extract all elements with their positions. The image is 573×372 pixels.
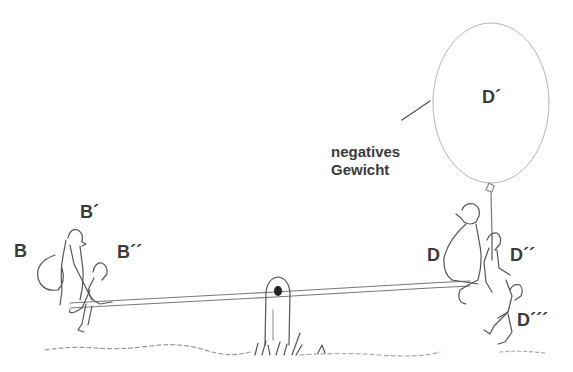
label-d: D	[427, 246, 440, 264]
label-d-double-prime: D´´	[510, 246, 535, 264]
label-b: B	[14, 242, 27, 260]
balloon-shape	[433, 23, 549, 236]
group-b-figures	[38, 230, 112, 332]
seesaw-plank	[70, 281, 470, 308]
label-b-prime: B´	[80, 203, 99, 221]
caption-pointer-line	[402, 101, 430, 120]
caption-line-2: Gewicht	[331, 161, 400, 179]
negative-weight-caption: negatives Gewicht	[331, 143, 400, 179]
fulcrum-post	[255, 277, 325, 355]
ground-line	[45, 345, 250, 355]
label-b-double-prime: B´´	[117, 243, 142, 261]
label-d-prime-balloon: D´	[482, 88, 501, 106]
caption-line-1: negatives	[331, 143, 400, 161]
illustration-drawing	[0, 0, 573, 372]
label-d-triple-prime: D´´´	[517, 311, 548, 329]
seesaw-illustration: B B´ B´´ D´ negatives Gewicht D D´´ D´´´	[0, 0, 573, 372]
group-d-figures	[444, 204, 522, 344]
